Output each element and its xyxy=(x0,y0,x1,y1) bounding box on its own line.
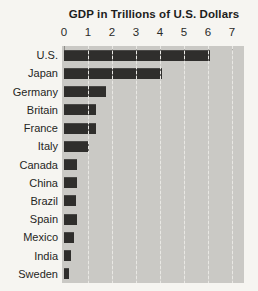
x-tick-label: 6 xyxy=(198,26,218,38)
category-label: France xyxy=(0,119,60,137)
bar-row xyxy=(62,265,244,283)
x-axis: 01234567 xyxy=(62,26,244,41)
category-label: Brazil xyxy=(0,192,60,210)
x-tick-label: 5 xyxy=(174,26,194,38)
gridline xyxy=(136,46,137,283)
x-tick-mark xyxy=(64,46,65,50)
gridline xyxy=(208,46,209,283)
gridline xyxy=(112,46,113,283)
x-tick-label: 4 xyxy=(150,26,170,38)
category-label: U.S. xyxy=(0,46,60,64)
bar xyxy=(64,123,96,134)
category-label: Germany xyxy=(0,82,60,100)
bar xyxy=(64,250,71,261)
plot-area xyxy=(62,46,244,283)
bar-row xyxy=(62,174,244,192)
x-tick-label: 1 xyxy=(78,26,98,38)
bar xyxy=(64,141,89,152)
bar-row xyxy=(62,247,244,265)
x-tick-label: 3 xyxy=(126,26,146,38)
category-label: Italy xyxy=(0,137,60,155)
bar-row xyxy=(62,210,244,228)
bar xyxy=(64,104,96,115)
bar-row xyxy=(62,46,244,64)
gridline xyxy=(184,46,185,283)
bar-row xyxy=(62,137,244,155)
category-label: Mexico xyxy=(0,228,60,246)
bar xyxy=(64,50,210,61)
bar-row xyxy=(62,64,244,82)
bar-row xyxy=(62,228,244,246)
chart-title: GDP in Trillions of U.S. Dollars xyxy=(54,8,254,20)
category-labels: U.S.JapanGermanyBritainFranceItalyCanada… xyxy=(0,46,60,283)
bar xyxy=(64,214,77,225)
x-tick-label: 7 xyxy=(222,26,242,38)
bars-container xyxy=(62,46,244,283)
category-label: Sweden xyxy=(0,265,60,283)
gdp-bar-chart: GDP in Trillions of U.S. Dollars 0123456… xyxy=(0,0,258,291)
bar xyxy=(64,268,69,279)
category-label: Japan xyxy=(0,64,60,82)
bar xyxy=(64,86,106,97)
category-label: Spain xyxy=(0,210,60,228)
x-tick-label: 2 xyxy=(102,26,122,38)
category-label: India xyxy=(0,247,60,265)
bar-row xyxy=(62,192,244,210)
x-tick-label: 0 xyxy=(54,26,74,38)
bar xyxy=(64,159,77,170)
bar-row xyxy=(62,82,244,100)
bar xyxy=(64,232,74,243)
bar xyxy=(64,195,76,206)
category-label: China xyxy=(0,174,60,192)
gridline xyxy=(232,46,233,283)
gridline xyxy=(160,46,161,283)
bar-row xyxy=(62,101,244,119)
gridline xyxy=(88,46,89,283)
category-label: Britain xyxy=(0,101,60,119)
bar xyxy=(64,68,162,79)
bar-row xyxy=(62,119,244,137)
bar xyxy=(64,177,77,188)
bar-row xyxy=(62,155,244,173)
category-label: Canada xyxy=(0,155,60,173)
